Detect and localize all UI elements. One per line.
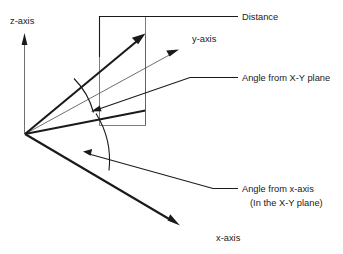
x-axis-label: x-axis — [216, 233, 241, 243]
y-axis-label: y-axis — [192, 34, 217, 44]
diagram-canvas: z-axis y-axis x-axis Distance Angle from… — [0, 0, 343, 254]
distance-vector-arrow — [25, 34, 146, 135]
azimuth-angle-arc — [96, 114, 110, 171]
x-y-reference-plane-rectangle — [100, 17, 146, 126]
elevation-angle-arc — [74, 79, 94, 113]
z-axis-vertical-arrow — [22, 33, 28, 134]
x-axis-diagonal-arrow — [25, 134, 180, 226]
z-axis-label: z-axis — [10, 16, 35, 26]
projection-vector-line — [25, 111, 146, 135]
y-axis-diagonal-arrow — [25, 50, 179, 135]
distance-label: Distance — [242, 12, 278, 22]
angle-from-x-axis-note-label: (In the X-Y plane) — [250, 198, 323, 208]
elevation-angle-leader-line — [91, 78, 238, 112]
angle-from-xy-plane-label: Angle from X-Y plane — [242, 73, 330, 83]
spherical-coordinate-diagram: z-axis y-axis x-axis Distance Angle from… — [0, 0, 343, 254]
angle-from-x-axis-label: Angle from x-axis — [242, 184, 314, 194]
